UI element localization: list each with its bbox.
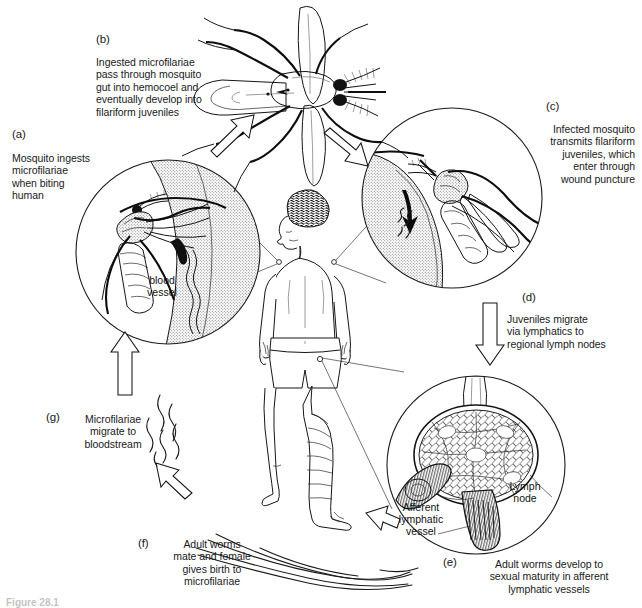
step-text-d: Juveniles migrate via lymphatics to regi… [507, 313, 637, 350]
step-text-e: Adult worms develop to sexual maturity i… [470, 558, 628, 595]
step-text-g: Microfilariae migrate to bloodstream [70, 413, 156, 450]
arrow-a-to-b [211, 115, 254, 157]
step-text-a: Mosquito ingests microfilariae when biti… [12, 152, 122, 202]
step-marker-g: (g) [46, 411, 60, 423]
human-figure [260, 190, 352, 531]
arrow-f-to-g [156, 463, 192, 499]
annotation-afferent-lymphatic-vessel: Afferent lymphatic vessel [393, 501, 449, 538]
step-text-f: Adult worms mate and female gives birth … [160, 538, 264, 588]
step-text-b: Ingested microfilariae pass through mosq… [96, 56, 222, 118]
figure-caption: Figure 28.1 [6, 597, 59, 608]
step-marker-f: (f) [138, 537, 149, 549]
arrow-c-to-d [476, 303, 504, 365]
step-text-c: Infected mosquito transmits filariform j… [509, 123, 635, 185]
arrow-b-to-c [324, 128, 368, 166]
step-marker-d: (d) [522, 291, 536, 303]
figure-lifecycle-diagram: (a) Mosquito ingests microfilariae when … [0, 0, 642, 608]
step-marker-e: (e) [443, 556, 457, 568]
step-marker-c: (c) [546, 100, 559, 112]
step-marker-b: (b) [96, 33, 110, 45]
step-marker-a: (a) [12, 128, 26, 140]
annotation-blood-vessel: blood vessel [139, 274, 185, 298]
arrow-g-to-a [111, 332, 139, 395]
annotation-lymph-node: Lymph node [503, 480, 547, 504]
